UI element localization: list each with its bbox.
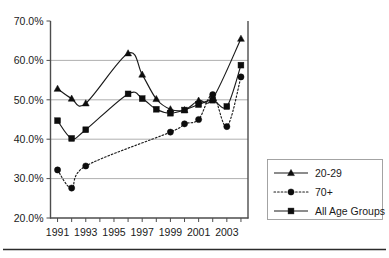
legend-label: 20-29 xyxy=(315,167,342,179)
data-point-marker-triangle xyxy=(68,95,75,101)
line-chart: 20.0%30.0%40.0%50.0%60.0%70.0% 199119931… xyxy=(0,0,389,258)
data-point-marker-square xyxy=(139,96,145,102)
data-point-marker-circle xyxy=(54,167,60,173)
axis-tick-marks xyxy=(47,21,241,222)
data-point-marker-circle xyxy=(83,163,89,169)
data-point-marker-circle xyxy=(238,74,244,80)
data-point-marker-circle xyxy=(181,121,187,127)
data-point-marker-square xyxy=(125,91,131,97)
data-point-marker-circle xyxy=(167,129,173,135)
chart-figure: 20.0%30.0%40.0%50.0%60.0%70.0% 199119931… xyxy=(0,0,389,258)
x-axis-tick-label: 2001 xyxy=(187,226,211,238)
y-axis-tick-labels: 20.0%30.0%40.0%50.0%60.0%70.0% xyxy=(14,15,44,224)
data-series-layer xyxy=(54,35,244,191)
legend-label: All Age Groups xyxy=(315,205,385,217)
data-point-marker-triangle xyxy=(139,71,146,77)
data-point-marker-square xyxy=(182,107,188,113)
data-point-marker-circle xyxy=(224,123,230,129)
x-axis-tick-label: 1991 xyxy=(46,226,70,238)
x-axis-tick-label: 2003 xyxy=(215,226,239,238)
data-point-marker-circle xyxy=(69,185,75,191)
grid-lines xyxy=(51,60,249,178)
data-point-marker-square xyxy=(168,110,174,116)
data-point-marker-square xyxy=(210,97,216,103)
data-point-marker-circle xyxy=(196,116,202,122)
chart-legend: 20-2970+All Age Groups xyxy=(268,160,386,220)
data-point-marker-square xyxy=(69,136,75,142)
data-point-marker-circle xyxy=(210,92,216,98)
data-point-marker-square xyxy=(55,118,61,124)
data-point-marker-square xyxy=(224,104,230,110)
y-axis-tick-label: 20.0% xyxy=(14,212,44,224)
data-point-marker-square xyxy=(196,102,202,108)
y-axis-tick-label: 40.0% xyxy=(14,133,44,145)
legend-label: 70+ xyxy=(315,186,333,198)
data-point-marker-triangle xyxy=(238,35,245,41)
data-point-marker-triangle xyxy=(54,85,61,91)
data-point-marker-square xyxy=(238,62,244,68)
x-axis-tick-label: 1999 xyxy=(159,226,183,238)
x-axis-tick-labels: 1991199319951997199920012003 xyxy=(46,226,239,238)
data-point-marker-square xyxy=(153,106,159,112)
y-axis-tick-label: 70.0% xyxy=(14,15,44,27)
y-axis-tick-label: 60.0% xyxy=(14,54,44,66)
data-point-marker-square xyxy=(288,208,294,214)
y-axis-tick-label: 50.0% xyxy=(14,94,44,106)
x-axis-tick-label: 1993 xyxy=(74,226,98,238)
x-axis-tick-label: 1995 xyxy=(102,226,126,238)
y-axis-tick-label: 30.0% xyxy=(14,172,44,184)
series-all-age-groups xyxy=(55,62,244,141)
data-point-marker-square xyxy=(83,127,89,133)
x-axis-tick-label: 1997 xyxy=(131,226,155,238)
data-point-marker-circle xyxy=(288,189,294,195)
